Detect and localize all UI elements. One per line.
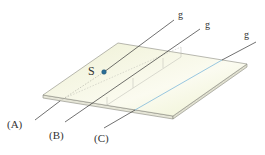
line-c-name: g [244,30,249,40]
label-a: (A) [7,119,22,130]
point-s-icon [102,70,107,75]
point-s-label: S [88,65,95,77]
label-b: (B) [49,130,64,141]
plate [43,43,247,119]
label-c: (C) [94,133,109,144]
line-a-name: g [178,10,183,20]
line-b-name: g [205,20,210,30]
diagram-canvas [0,0,265,155]
